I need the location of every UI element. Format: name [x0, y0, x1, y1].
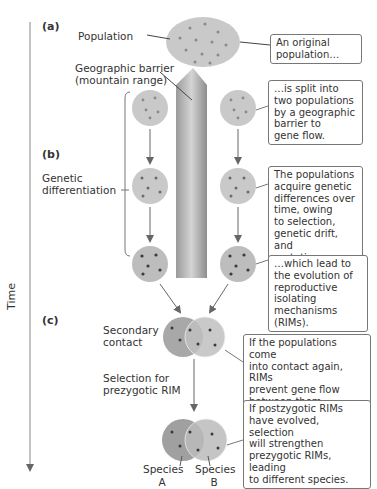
secondary-label-1: Secondary: [103, 324, 159, 337]
barrier-label-2: (mountain range): [75, 74, 167, 87]
species-b-label: SpeciesB: [195, 463, 233, 488]
selection-label-1: Selection for: [103, 372, 169, 385]
secondary-label-2: contact: [103, 336, 142, 349]
genetic-label-1: Genetic: [42, 172, 83, 185]
time-axis-label: Time: [5, 283, 18, 310]
callout-differentiation: The populationsacquire geneticdifference…: [268, 166, 363, 266]
genetic-label-2: differentiation: [42, 184, 116, 197]
part-b-label: (b): [42, 148, 60, 161]
callout-split: …is split intotwo populationsby a geogra…: [268, 80, 363, 145]
part-a-label: (a): [42, 20, 59, 33]
callout-species: If postzygotic RIMshave evolved, selecti…: [243, 400, 371, 489]
barrier-label-1: Geographic barrier: [75, 62, 174, 75]
callout-rims: …which lead tothe evolution ofreproducti…: [268, 255, 368, 332]
callout-original: An originalpopulation…: [270, 34, 362, 64]
species-a-label: SpeciesA: [143, 463, 181, 488]
population-label: Population: [78, 30, 133, 43]
selection-label-2: prezygotic RIM: [103, 384, 181, 397]
part-c-label: (c): [42, 314, 59, 327]
